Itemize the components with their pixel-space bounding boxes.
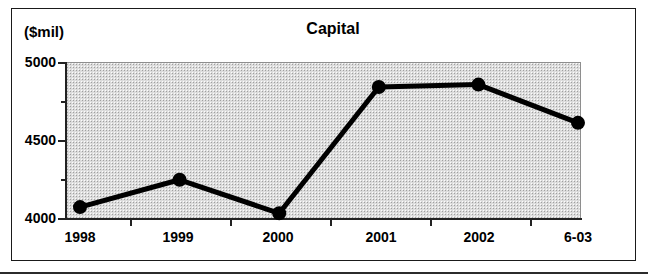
data-point-marker <box>73 200 87 214</box>
series-layer <box>0 0 648 279</box>
data-point-marker <box>173 173 187 187</box>
page-rule <box>0 272 648 274</box>
data-point-marker <box>571 116 585 130</box>
data-point-marker <box>471 78 485 92</box>
data-point-marker <box>272 206 286 220</box>
series-line-capital <box>80 85 578 214</box>
data-point-marker <box>372 80 386 94</box>
chart-figure: ($mil) Capital 5000 4500 4000 1998 1999 … <box>0 0 648 279</box>
